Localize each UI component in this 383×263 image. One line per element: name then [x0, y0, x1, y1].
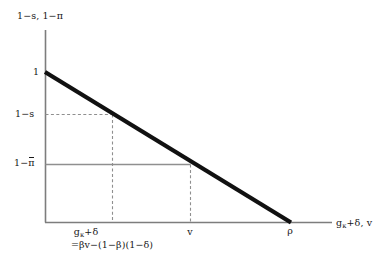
y-axis-title: 1−s, 1−π [17, 11, 63, 21]
overbar [29, 157, 35, 158]
x-tick-label-v: v [187, 227, 192, 237]
y-tick-label-one-minus-pi-bar: 1−π [14, 158, 35, 168]
schedule-line [45, 72, 291, 223]
x-tick-sublabel-gk-definition: =βv−(1−β)(1−δ) [71, 240, 153, 250]
x-tick-label-rho: ρ [287, 226, 293, 236]
x-axis-title-rest: +δ, v [347, 217, 373, 228]
chart-canvas [0, 0, 383, 263]
y-tick-label-one: 1 [33, 67, 39, 77]
pi-bar-glyph: π [28, 158, 34, 168]
x-tick-gk-rest: +δ [84, 226, 98, 237]
x-axis-title: gк+δ, v [336, 218, 372, 229]
x-tick-label-gk-plus-delta: gк+δ [74, 227, 98, 238]
y-axis-title-pi: π [57, 10, 63, 21]
chart-figure: 1−s, 1−π gк+δ, v 1 1−s 1−π gк+δ =βv−(1−β… [0, 0, 383, 263]
y-axis-title-text: 1−s, 1− [17, 10, 57, 21]
y-tick-label-one-minus-s: 1−s [15, 109, 34, 119]
y-tick-prefix: 1− [14, 157, 28, 168]
pi-glyph: π [28, 157, 34, 168]
